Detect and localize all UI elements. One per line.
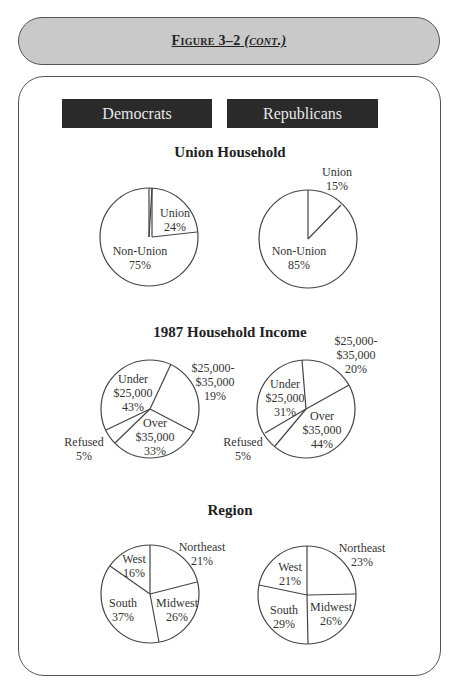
svg-text:33%: 33%: [144, 444, 166, 458]
svg-text:26%: 26%: [166, 610, 188, 624]
dem-mid-label: $25,000-: [192, 361, 235, 375]
svg-text:23%: 23%: [351, 555, 373, 569]
dem-west-label: West: [122, 552, 146, 566]
dem-region-pie: Northeast 21% West 16% South 37% Midwest…: [101, 540, 226, 643]
rep-mid-label: $25,000-: [335, 334, 378, 348]
rep-south-label: South: [270, 603, 298, 617]
svg-text:37%: 37%: [112, 610, 134, 624]
rep-union-label: Union: [322, 165, 352, 179]
dem-refused-label: Refused: [64, 435, 103, 449]
dem-nonunion-label: Non-Union: [113, 244, 168, 258]
dem-northeast-label: Northeast: [179, 540, 226, 554]
dem-under-label: Under: [118, 372, 148, 386]
svg-text:$25,000: $25,000: [114, 386, 153, 400]
svg-text:16%: 16%: [123, 566, 145, 580]
svg-text:$25,000: $25,000: [266, 391, 305, 405]
svg-text:20%: 20%: [345, 362, 367, 376]
dem-income-pie: Under $25,000 43% $25,000- $35,000 19% O…: [64, 360, 234, 463]
rep-union-pie: Union 15% Non-Union 85%: [259, 165, 357, 288]
svg-text:26%: 26%: [320, 614, 342, 628]
rep-region-pie: Northeast 23% West 21% South 29% Midwest…: [258, 541, 386, 644]
svg-text:19%: 19%: [204, 389, 226, 403]
svg-text:5%: 5%: [235, 449, 251, 463]
svg-text:21%: 21%: [191, 554, 213, 568]
dem-union-pie: Union 24% Non-Union 75%: [100, 188, 198, 286]
svg-text:43%: 43%: [122, 400, 144, 414]
svg-text:$35,000: $35,000: [303, 423, 342, 437]
svg-text:$35,000: $35,000: [196, 375, 235, 389]
dem-union-label: Union: [160, 206, 190, 220]
rep-income-pie: Under $25,000 31% $25,000- $35,000 20% O…: [223, 334, 377, 463]
rep-northeast-label: Northeast: [339, 541, 386, 555]
rep-over-label: Over: [310, 409, 334, 423]
rep-under-label: Under: [270, 377, 300, 391]
rep-west-label: West: [278, 560, 302, 574]
dem-over-label: Over: [143, 416, 167, 430]
pie-charts: Union 24% Non-Union 75% Union 15% Non-Un…: [0, 0, 460, 696]
svg-text:85%: 85%: [288, 258, 310, 272]
svg-text:44%: 44%: [311, 437, 333, 451]
dem-south-label: South: [109, 596, 137, 610]
svg-text:75%: 75%: [129, 258, 151, 272]
svg-text:5%: 5%: [76, 449, 92, 463]
rep-midwest-label: Midwest: [310, 600, 353, 614]
rep-nonunion-label: Non-Union: [272, 244, 327, 258]
svg-text:29%: 29%: [273, 617, 295, 631]
svg-text:31%: 31%: [274, 405, 296, 419]
dem-midwest-label: Midwest: [156, 596, 199, 610]
rep-refused-label: Refused: [223, 435, 262, 449]
svg-text:15%: 15%: [326, 179, 348, 193]
svg-text:24%: 24%: [164, 220, 186, 234]
svg-text:$35,000: $35,000: [337, 348, 376, 362]
svg-text:$35,000: $35,000: [136, 430, 175, 444]
svg-text:21%: 21%: [279, 574, 301, 588]
